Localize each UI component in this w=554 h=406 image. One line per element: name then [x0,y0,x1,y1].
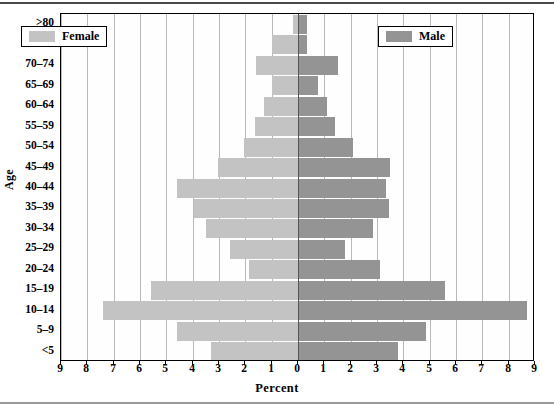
x-tick-label: 6 [445,362,465,374]
y-tick-label: 15–19 [0,283,54,294]
bar-male [298,138,353,157]
bar-male [298,301,527,320]
bar-row [61,35,533,54]
x-tick-label: 1 [261,362,281,374]
x-tick-label: 5 [155,362,175,374]
bar-female [272,76,298,95]
bar-row [61,219,533,238]
x-tick-label: 8 [498,362,518,374]
legend-swatch-female [29,31,55,42]
bar-female [249,260,298,279]
x-tick-label: 4 [182,362,202,374]
bar-female [177,322,298,341]
bar-row [61,56,533,75]
bar-row [61,260,533,279]
bar-row [61,179,533,198]
bar-female [218,158,298,177]
bar-male [298,342,398,360]
bar-male [298,240,345,259]
legend-label-male: Male [419,29,445,44]
x-tick-label: 2 [340,362,360,374]
bar-row [61,97,533,116]
bar-row [61,15,533,34]
bar-female [230,240,298,259]
y-tick-label: 55–59 [0,120,54,131]
bar-male [298,97,327,116]
x-axis-title: Percent [0,381,554,396]
x-tick-label: 4 [392,362,412,374]
bar-female [177,179,298,198]
bar-female [255,117,298,136]
figure-top-rule [0,2,554,4]
x-tick-label: 2 [234,362,254,374]
bar-row [61,342,533,360]
bar-row [61,240,533,259]
bar-female [264,97,298,116]
x-tick-label: 3 [366,362,386,374]
x-tick-label: 0 [287,362,307,374]
bar-male [298,322,426,341]
y-tick-label: <5 [0,345,54,356]
bar-male [298,260,380,279]
y-tick-label: 40–44 [0,181,54,192]
bar-female [151,281,298,300]
y-tick-label: 25–29 [0,242,54,253]
y-tick-label: 60–64 [0,99,54,110]
y-tick-label: 70–74 [0,58,54,69]
bar-row [61,117,533,136]
y-tick-label: 65–69 [0,79,54,90]
bar-row [61,158,533,177]
bar-male [298,35,307,54]
x-tick-label: 7 [103,362,123,374]
x-tick-label: 3 [208,362,228,374]
gridline-zero [298,14,299,360]
bar-row [61,76,533,95]
y-axis-tick-labels: >8075–7970–7465–6960–6455–5950–5445–4940… [0,13,60,361]
bar-male [298,15,307,34]
bar-row [61,199,533,218]
y-tick-label: 30–34 [0,222,54,233]
legend-male: Male [378,26,453,47]
x-tick-label: 9 [524,362,544,374]
legend-female: Female [21,26,107,47]
bar-female [206,219,298,238]
y-tick-label: 10–14 [0,304,54,315]
legend-swatch-male [386,31,412,42]
legend-label-female: Female [62,29,99,44]
bar-male [298,158,390,177]
x-tick-label: 7 [471,362,491,374]
bar-row [61,322,533,341]
y-tick-label: 35–39 [0,201,54,212]
y-tick-label: 50–54 [0,140,54,151]
x-axis-tick-labels: 9876543210123456789 [60,362,534,380]
bar-female [272,35,298,54]
bar-male [298,76,318,95]
x-tick-label: 8 [76,362,96,374]
y-tick-label: 45–49 [0,161,54,172]
bar-female [256,56,298,75]
plot-area [60,13,534,361]
bar-female [211,342,298,360]
bar-male [298,56,338,75]
y-tick-label: 20–24 [0,263,54,274]
bar-row [61,281,533,300]
bar-male [298,117,335,136]
bar-female [244,138,298,157]
bar-male [298,219,373,238]
figure-bottom-rule [0,402,554,404]
bar-row [61,301,533,320]
bar-female [194,199,298,218]
x-tick-label: 9 [50,362,70,374]
bar-row [61,138,533,157]
y-tick-label: 5–9 [0,324,54,335]
bar-male [298,199,389,218]
x-tick-label: 1 [313,362,333,374]
x-tick-label: 5 [419,362,439,374]
x-tick-label: 6 [129,362,149,374]
plot-inner [61,14,533,360]
population-pyramid-figure: Age >8075–7970–7465–6960–6455–5950–5445–… [0,0,554,406]
bar-male [298,179,386,198]
bar-male [298,281,445,300]
bar-female [103,301,298,320]
